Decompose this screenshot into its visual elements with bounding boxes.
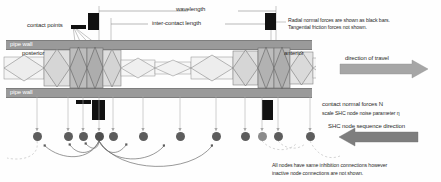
shc-node[interactable] — [64, 132, 73, 141]
shc-node[interactable] — [241, 132, 250, 141]
diagram-canvas: wavelength inter-contact length contact … — [0, 0, 441, 182]
contact-normal-forces-note-line1: contact normal forces N — [322, 101, 383, 108]
shc-node-dim[interactable] — [258, 132, 267, 141]
shc-node[interactable] — [109, 132, 118, 141]
contact-normal-forces-note-line2: scale SHC node noise parameter η — [322, 110, 400, 116]
shc-node-network — [0, 0, 441, 182]
shc-node[interactable] — [306, 132, 315, 141]
inhibition-note-line2: inactive node connections are not shown. — [272, 170, 363, 176]
shc-node[interactable] — [139, 132, 148, 141]
node-stem-arrowheads — [35, 128, 311, 132]
inhibition-arc-arrowheads — [44, 142, 213, 146]
shc-sequence-direction-label: SHC node sequence direction — [328, 123, 405, 130]
inhibition-note-line1: All nodes have same inhibition connectio… — [272, 162, 387, 168]
shc-node-active[interactable] — [95, 132, 104, 141]
node-stems — [37, 96, 310, 130]
shc-node[interactable] — [274, 132, 283, 141]
shc-node[interactable] — [212, 132, 221, 141]
inactive-inhibition-arcs — [7, 141, 340, 159]
shc-node[interactable] — [79, 132, 88, 141]
shc-sequence-direction-arrow — [339, 128, 418, 146]
shc-node[interactable] — [33, 132, 42, 141]
shc-node[interactable] — [176, 132, 185, 141]
